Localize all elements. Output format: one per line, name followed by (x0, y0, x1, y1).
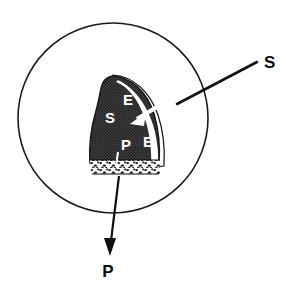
inclusion-label-e-top: E (123, 91, 133, 108)
arrow-head-p (104, 238, 116, 256)
diagram-canvas: E S P E S P (0, 0, 289, 284)
inclusion-label-s: S (105, 109, 115, 126)
inclusion-rubble-base (90, 160, 160, 174)
figure-container: E S P E S P (0, 0, 289, 284)
external-label-p: P (102, 262, 113, 281)
external-label-s: S (264, 53, 275, 72)
inclusion-label-p: P (121, 136, 131, 153)
inclusion-label-e-right: E (143, 133, 153, 150)
